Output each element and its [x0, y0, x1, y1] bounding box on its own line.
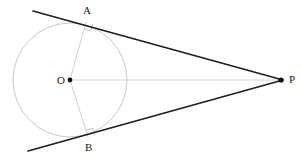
upper-tangent-line: [33, 11, 283, 80]
point-label-P: P: [289, 74, 295, 85]
point-label-B: B: [85, 142, 92, 153]
point-dot-O: [68, 78, 73, 83]
point-label-A: A: [83, 5, 91, 16]
lower-tangent-line: [28, 80, 283, 151]
point-dot-P: [278, 77, 283, 82]
tangent-lines-group: [28, 11, 283, 151]
point-label-O: O: [57, 75, 65, 86]
radius-OA-line: [70, 22, 86, 80]
radius-OB-line: [70, 80, 88, 137]
geometry-figure: O A B P: [0, 0, 302, 163]
geometry-canvas: [0, 0, 302, 163]
